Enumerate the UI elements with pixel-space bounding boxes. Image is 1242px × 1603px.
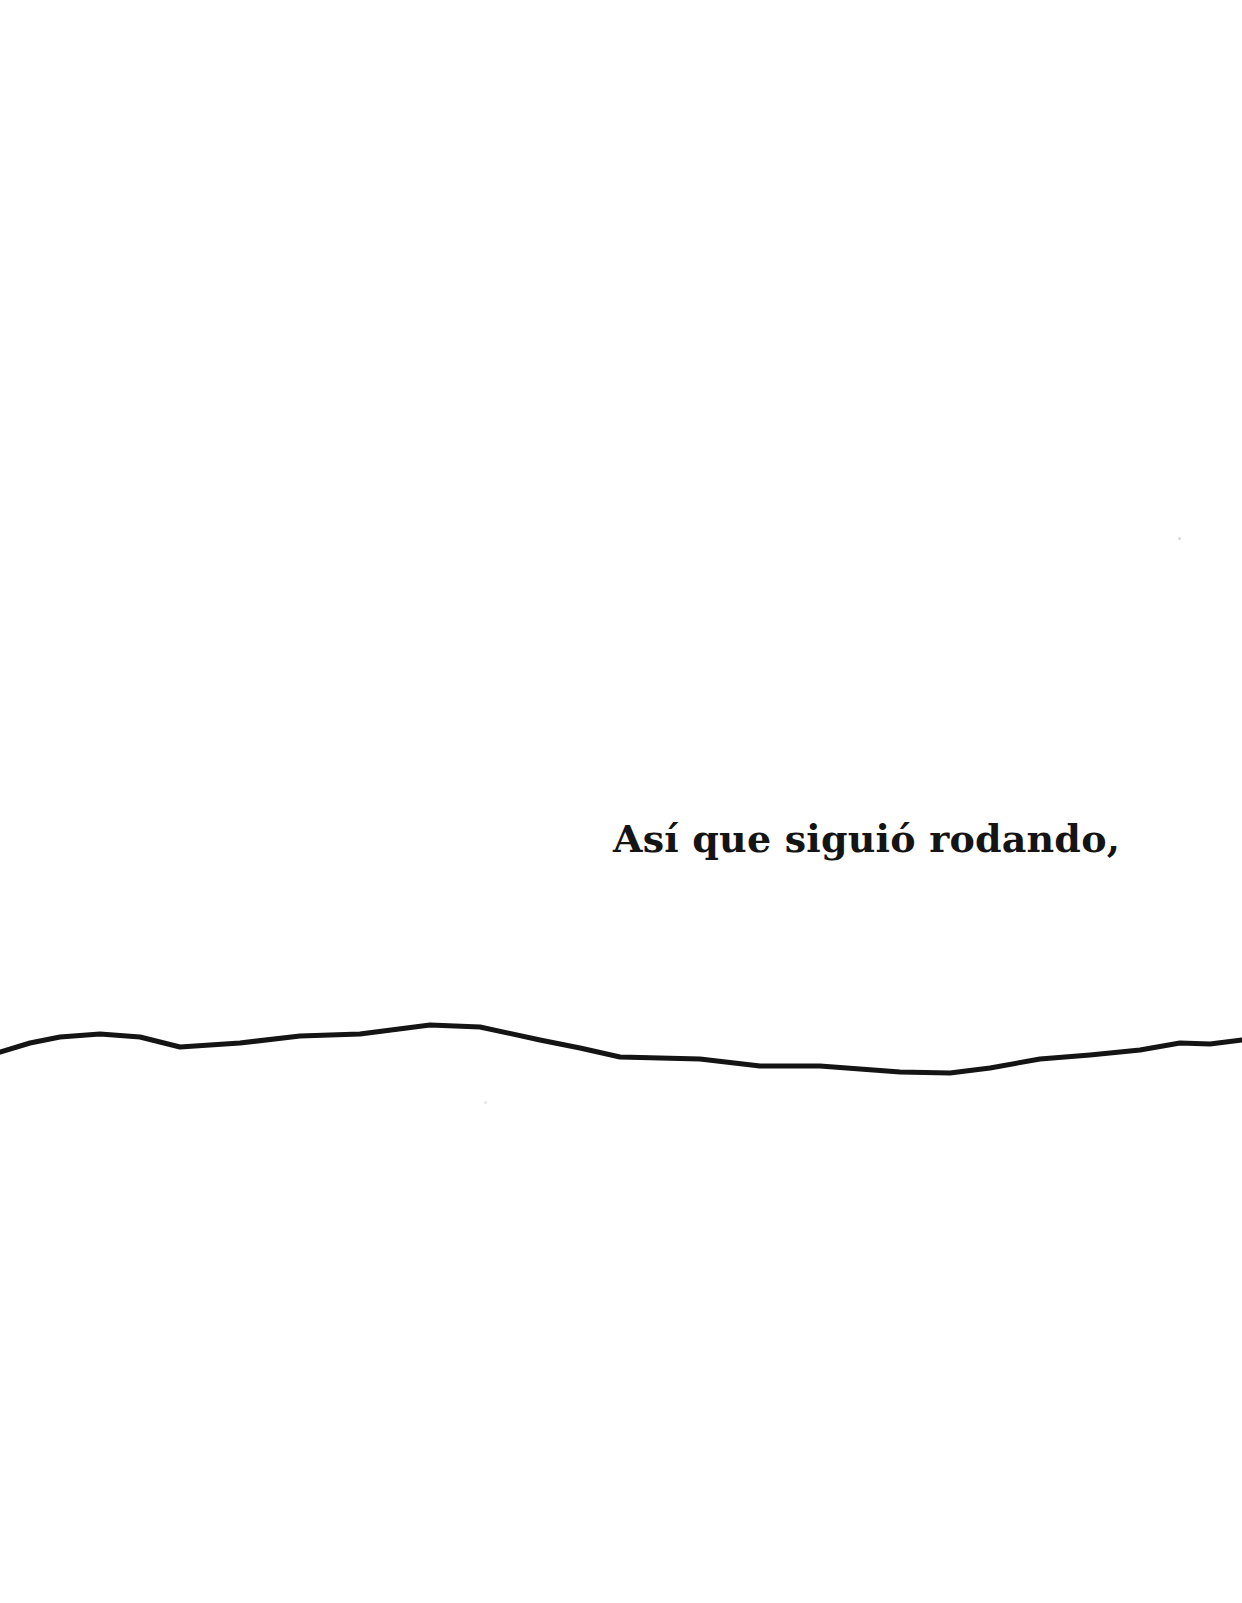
scan-speck — [1178, 537, 1181, 540]
wavy-line-path — [0, 1025, 1242, 1073]
wavy-ground-line — [0, 0, 1242, 1603]
book-page: Así que siguió rodando, — [0, 0, 1242, 1603]
scan-speck — [484, 1101, 487, 1104]
